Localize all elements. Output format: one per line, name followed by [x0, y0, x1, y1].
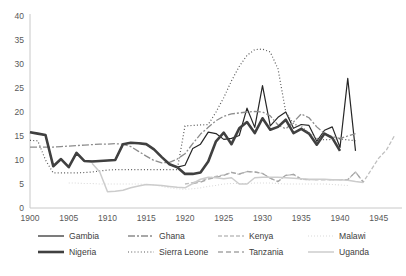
- legend-item-malawi[interactable]: Malawi: [308, 231, 366, 241]
- legend-label-tanzania: Tanzania: [249, 247, 283, 257]
- x-axis-tick-label: 1900: [21, 213, 40, 223]
- chart-legend: GambiaGhanaKenyaMalawi NigeriaSierra Leo…: [0, 228, 406, 262]
- series-line-uganda: [92, 163, 363, 191]
- x-axis-tick-label: 1935: [292, 213, 311, 223]
- x-axis-tick-label: 1920: [176, 213, 195, 223]
- y-axis-tick-label: 25: [15, 83, 25, 93]
- legend-label-malawi: Malawi: [339, 231, 366, 241]
- legend-swatch-ghana: [128, 231, 154, 241]
- x-axis-tick-label: 1940: [331, 213, 350, 223]
- legend-item-ghana[interactable]: Ghana: [128, 231, 218, 241]
- x-axis-tick-label: 1925: [214, 213, 233, 223]
- series-line-malawi: [69, 183, 348, 189]
- legend-item-gambia[interactable]: Gambia: [38, 231, 128, 241]
- legend-item-tanzania[interactable]: Tanzania: [218, 247, 308, 257]
- legend-row-2: NigeriaSierra LeoneTanzaniaUganda: [0, 244, 406, 260]
- legend-label-ghana: Ghana: [159, 231, 185, 241]
- legend-swatch-gambia: [38, 231, 64, 241]
- legend-swatch-nigeria: [38, 247, 64, 257]
- legend-swatch-sierra-leone: [128, 247, 154, 257]
- legend-label-nigeria: Nigeria: [69, 247, 96, 257]
- y-axis-tick-label: 30: [15, 59, 25, 69]
- x-axis-tick-label: 1930: [253, 213, 272, 223]
- chart-plot-area: 0510152025303540190019051910191519201925…: [0, 0, 406, 228]
- y-axis-tick-label: 20: [15, 107, 25, 117]
- y-axis-tick-label: 10: [15, 155, 25, 165]
- legend-label-sierra-leone: Sierra Leone: [159, 247, 208, 257]
- legend-item-kenya[interactable]: Kenya: [218, 231, 308, 241]
- legend-label-kenya: Kenya: [249, 231, 273, 241]
- line-chart-figure: 0510152025303540190019051910191519201925…: [0, 0, 406, 276]
- y-axis-tick-label: 40: [15, 11, 25, 21]
- legend-swatch-kenya: [218, 231, 244, 241]
- legend-label-uganda: Uganda: [339, 247, 369, 257]
- legend-item-nigeria[interactable]: Nigeria: [38, 247, 128, 257]
- y-axis-tick-label: 35: [15, 35, 25, 45]
- x-axis-tick-label: 1915: [137, 213, 156, 223]
- legend-row-1: GambiaGhanaKenyaMalawi: [0, 228, 406, 244]
- y-axis-tick-label: 5: [19, 179, 24, 189]
- y-axis-tick-label: 0: [19, 203, 24, 213]
- x-axis-tick-label: 1910: [98, 213, 117, 223]
- x-axis-tick-label: 1905: [59, 213, 78, 223]
- legend-swatch-uganda: [308, 247, 334, 257]
- legend-swatch-tanzania: [218, 247, 244, 257]
- y-axis-tick-label: 15: [15, 131, 25, 141]
- legend-swatch-malawi: [308, 231, 334, 241]
- legend-item-sierra-leone[interactable]: Sierra Leone: [128, 247, 218, 257]
- x-axis-tick-label: 1945: [369, 213, 388, 223]
- legend-label-gambia: Gambia: [69, 231, 99, 241]
- legend-item-uganda[interactable]: Uganda: [308, 247, 369, 257]
